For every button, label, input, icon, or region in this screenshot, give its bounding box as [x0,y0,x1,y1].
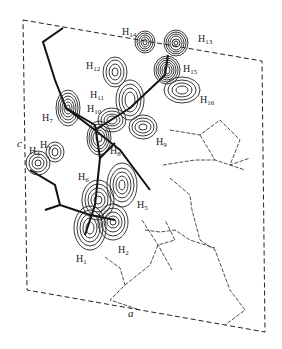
atom-label-h6: H6 [78,172,89,185]
axis-label-a: a [128,307,134,319]
atom-label-h15: H15 [183,64,197,77]
atom-label-h14: H14 [122,27,136,40]
contour-cluster [26,30,200,250]
atom-label-h4: H4 [29,146,40,159]
atom-label-h2: H2 [118,245,129,258]
atom-label-h11: H11 [90,90,104,103]
atom-label-h10: H10 [87,104,101,117]
atom-label-h3: H3 [40,140,51,153]
neighbor-molecules [105,120,250,325]
axis-label-c: c [17,137,22,149]
atom-label-h1: H1 [76,254,87,267]
atom-label-h5: H5 [137,200,148,213]
atom-label-h13: H13 [198,34,212,47]
unit-cell-boundary [23,20,265,332]
atom-label-h8: H8 [110,146,121,159]
atom-label-h7: H7 [42,113,53,126]
atom-label-h12: H12 [86,61,100,74]
contour-diagram [0,0,282,349]
atom-label-h16: H16 [200,95,214,108]
atom-label-h9: H9 [156,137,167,150]
